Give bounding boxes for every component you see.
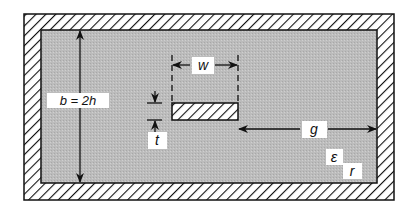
gap-label: g [310, 121, 318, 137]
center-strip-conductor [172, 103, 238, 120]
strip-width-label: w [198, 57, 209, 73]
epsilon-symbol: ε [331, 148, 338, 165]
stripline-diagram: b = 2h w t g ε r [0, 0, 413, 214]
ground-spacing-label: b = 2h [60, 93, 97, 108]
